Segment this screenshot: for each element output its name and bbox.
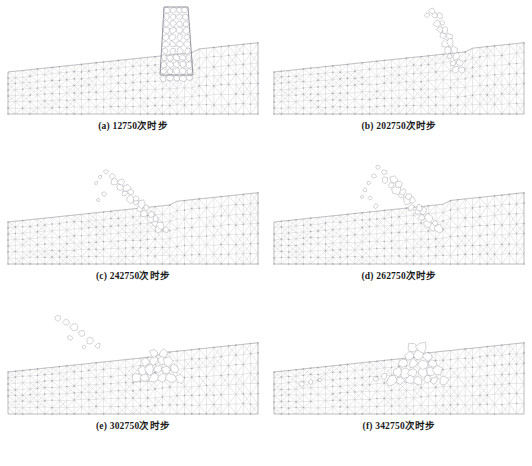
- wall-blocks-b: [424, 8, 465, 73]
- panel-c: (c) 242750次时步: [0, 150, 266, 300]
- panel-b-caption: (b) 202750次时步: [266, 118, 532, 132]
- ground-mesh-c: [7, 192, 258, 264]
- panel-e: (e) 302750次时步: [0, 300, 266, 450]
- panel-b: (b) 202750次时步: [266, 0, 532, 150]
- panel-e-caption: (e) 302750次时步: [0, 418, 266, 432]
- panel-e-canvas: [0, 300, 266, 428]
- wall-blocks-c: [95, 170, 169, 233]
- wall-blocks-a: [160, 7, 193, 82]
- panel-a-caption: (a) 12750次时步: [0, 118, 266, 132]
- wall-blocks-d: [360, 165, 443, 233]
- panel-d-canvas: [266, 150, 532, 278]
- ground-mesh-d: [273, 192, 524, 264]
- ground-mesh-a: [7, 42, 258, 114]
- panel-f-canvas: [266, 300, 532, 428]
- panel-c-canvas: [0, 150, 266, 278]
- panel-c-caption: (c) 242750次时步: [0, 268, 266, 282]
- panel-a: (a) 12750次时步: [0, 0, 266, 150]
- ground-mesh-f: [273, 342, 524, 414]
- figure-grid: (a) 12750次时步 (b) 202750次时步 (c) 242750次时步: [0, 0, 532, 466]
- panel-b-canvas: [266, 0, 532, 128]
- panel-d: (d) 262750次时步: [266, 150, 532, 300]
- panel-d-caption: (d) 262750次时步: [266, 268, 532, 282]
- ground-mesh-b: [273, 42, 524, 114]
- panel-f: (f) 342750次时步: [266, 300, 532, 450]
- panel-a-canvas: [0, 0, 266, 128]
- panel-f-caption: (f) 342750次时步: [266, 418, 532, 432]
- ground-mesh-e: [7, 315, 258, 414]
